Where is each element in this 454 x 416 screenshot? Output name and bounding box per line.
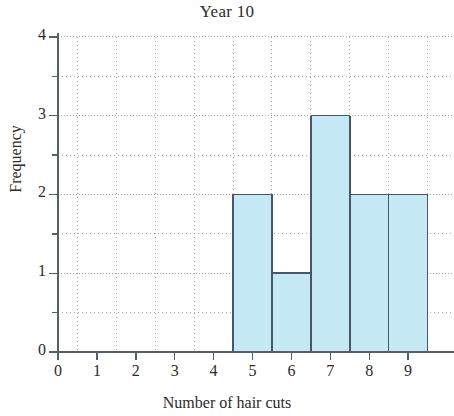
bar-series [233,116,427,352]
y-tick-label: 2 [22,183,46,201]
x-tick-label: 4 [202,362,226,380]
bar [272,273,311,352]
x-tick-label: 5 [241,362,265,380]
bar [311,116,350,352]
x-tick-label: 9 [396,362,420,380]
x-tick-label: 2 [124,362,148,380]
x-tick-label: 6 [279,362,303,380]
y-tick-label: 3 [22,105,46,123]
x-tick-label: 1 [85,362,109,380]
bar [233,194,272,352]
x-tick-label: 3 [163,362,187,380]
x-tick-label: 7 [318,362,342,380]
plot-area [0,0,454,416]
bar [350,194,389,352]
x-tick-label: 0 [46,362,70,380]
x-tick-label: 8 [357,362,381,380]
histogram-chart: Year 10 Frequency Number of hair cuts 01… [0,0,454,416]
bar [389,194,428,352]
y-tick-label: 1 [22,262,46,280]
y-tick-label: 0 [22,341,46,359]
y-tick-label: 4 [22,26,46,44]
